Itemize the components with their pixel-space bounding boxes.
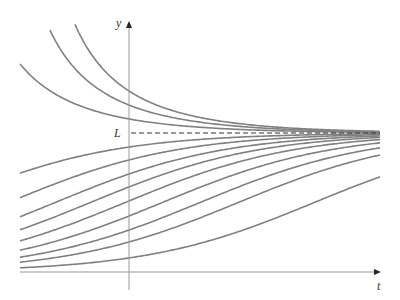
solution-curves — [20, 24, 380, 267]
solution-curve — [20, 134, 380, 173]
solution-curve — [20, 148, 380, 257]
y-axis-label: y — [116, 17, 121, 29]
solution-curve — [50, 30, 380, 132]
logistic-solutions-chart — [0, 0, 400, 300]
solution-curve — [75, 24, 379, 131]
t-axis-label: t — [377, 280, 380, 292]
t-axis-arrow-icon — [374, 269, 381, 275]
y-axis-arrow-icon — [126, 21, 132, 28]
L-label: L — [114, 127, 121, 139]
